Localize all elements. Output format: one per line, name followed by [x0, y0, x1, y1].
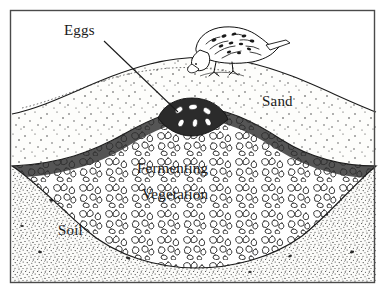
label-sand: Sand: [262, 93, 293, 110]
illustration-figure: Eggs Sand Soil Fermenting Vegetation: [0, 0, 389, 294]
label-vegetation: Vegetation: [142, 186, 208, 203]
label-fermenting: Fermenting: [137, 160, 208, 177]
cross-section-svg: [0, 0, 389, 294]
label-eggs: Eggs: [64, 22, 95, 39]
label-soil: Soil: [58, 222, 83, 239]
